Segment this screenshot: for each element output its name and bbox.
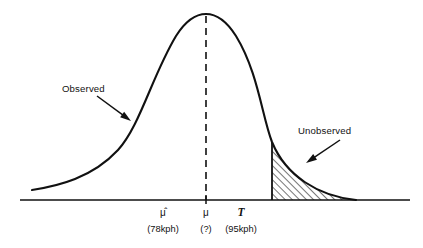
observed-leader-line <box>97 96 124 116</box>
unobserved-callout: Unobserved <box>298 125 351 163</box>
observed-label: Observed <box>62 83 105 94</box>
figure-canvas: μ̂ (78kph) μ (?) T (95kph) Observed Unob… <box>0 0 423 248</box>
density-curve <box>32 14 356 200</box>
axis-label-mu-hat-symbol: μ̂ <box>160 207 168 218</box>
observed-callout: Observed <box>62 83 131 121</box>
unobserved-leader-line <box>313 140 340 158</box>
axis-label-threshold-symbol: T <box>237 206 245 218</box>
axis-label-threshold-value: (95kph) <box>225 224 257 234</box>
observed-arrow-icon <box>120 112 131 121</box>
distribution-figure: μ̂ (78kph) μ (?) T (95kph) Observed Unob… <box>0 0 423 248</box>
tail-hatch-fill <box>272 142 356 200</box>
axis-labels: μ̂ (78kph) μ (?) T (95kph) <box>147 206 257 234</box>
unobserved-tail-region <box>272 142 356 200</box>
axis-label-mu-value: (?) <box>200 224 211 234</box>
axis-label-mu-symbol: μ <box>203 207 209 218</box>
unobserved-label: Unobserved <box>298 125 351 136</box>
axis-label-mu-hat-value: (78kph) <box>147 224 179 234</box>
unobserved-arrow-icon <box>306 154 317 163</box>
